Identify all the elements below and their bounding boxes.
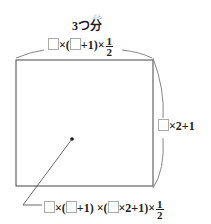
blank-box (44, 201, 55, 213)
blank-box (66, 201, 77, 213)
formula-text: ×( (59, 38, 70, 52)
formula-text: ×2+1 (169, 119, 195, 133)
bottom-formula: ×(+1) ×(×2+1)×12 (44, 199, 164, 220)
title-ruby: ぶん (92, 14, 102, 19)
denominator: 2 (106, 47, 114, 57)
top-brace-left (16, 50, 44, 58)
blank-box (48, 38, 59, 50)
right-brace-bottom (153, 138, 163, 188)
denominator: 2 (156, 210, 164, 220)
blank-box (108, 201, 119, 213)
title-label: ぶん 3つ分 (72, 20, 102, 32)
top-formula: ×(+1)×12 (48, 36, 113, 57)
diagram-canvas (0, 0, 211, 224)
fraction: 12 (106, 36, 114, 57)
rectangle (16, 60, 153, 186)
title-text: 3つ分 (72, 19, 102, 33)
top-brace-right (122, 50, 152, 58)
fraction: 12 (156, 199, 164, 220)
leader-line (23, 139, 72, 205)
formula-text: ×2+1)× (119, 201, 156, 215)
blank-box (158, 119, 169, 131)
formula-text: +1)× (81, 38, 105, 52)
formula-text: ×( (55, 201, 66, 215)
blank-box (70, 38, 81, 50)
right-brace-top (153, 58, 163, 118)
formula-text: +1) ×( (77, 201, 108, 215)
right-formula: ×2+1 (158, 119, 195, 132)
